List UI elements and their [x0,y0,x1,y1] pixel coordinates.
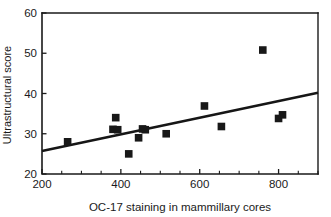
x-tick-label-200: 200 [32,178,51,190]
y-axis-title: Ultrastructural score [1,46,13,144]
y-axis-tick-labels: 2030405060 [24,7,37,180]
data-point [135,134,143,142]
y-tick-label-30: 30 [24,128,37,140]
data-point [64,138,72,146]
data-point [162,130,170,138]
data-point [279,111,287,119]
y-tick-label-40: 40 [24,88,37,100]
axis-frame [42,13,318,174]
x-tick-label-600: 600 [190,178,209,190]
y-tick-label-50: 50 [24,47,37,59]
scatter-plot-figure: 2030405060 200400600800 OC-17 staining i… [0,0,331,217]
x-axis-tick-labels: 200400600800 [32,178,288,190]
data-point [218,123,226,131]
y-tick-label-60: 60 [24,7,37,19]
axes [42,13,318,174]
x-tick-label-800: 800 [269,178,288,190]
data-point [125,150,133,158]
x-axis-title: OC-17 staining in mammillary cores [89,201,271,213]
data-point [142,126,150,134]
data-point [112,114,120,122]
data-point [259,46,267,54]
data-point [201,102,209,110]
x-tick-label-400: 400 [111,178,130,190]
plot-canvas: 2030405060 200400600800 OC-17 staining i… [0,0,331,217]
data-point-markers [64,46,286,157]
data-point [114,126,122,134]
